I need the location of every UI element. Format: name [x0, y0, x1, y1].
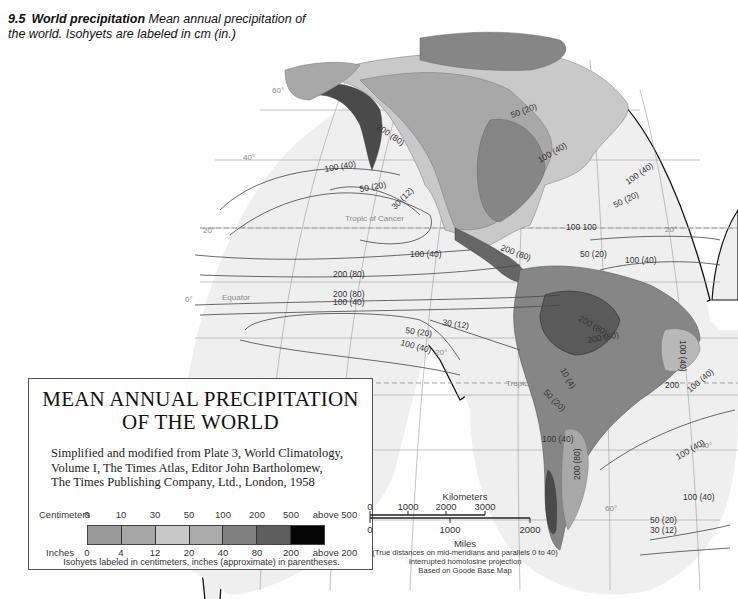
lat-label-0: 0°: [185, 295, 193, 304]
lat-label-60-south: 60°: [605, 504, 617, 513]
distance-scale: Kilometers 0 1000 2000 3000 0 1000 2000 …: [360, 491, 570, 571]
tropic-of-cancer-label: Tropic of Cancer: [345, 214, 404, 223]
cm-tick: above 500: [313, 509, 357, 520]
class-swatch: [156, 526, 190, 544]
class-swatch: [190, 526, 224, 544]
class-swatch: [257, 526, 291, 544]
mi-tick: 1000: [439, 524, 460, 535]
isohyet-label: 100 (40): [683, 492, 715, 502]
cm-tick: 100: [215, 509, 231, 520]
isohyet-label: 100 (40): [542, 434, 574, 444]
cm-tick: 0: [84, 509, 89, 520]
mi-tick: 0: [367, 524, 372, 535]
isohyet-label: 100 (40): [625, 255, 657, 265]
base-map-note: Based on Goode Base Map: [360, 566, 570, 575]
legend-title-line1: MEAN ANNUAL PRECIPITATION: [29, 388, 372, 411]
source-line: The Times Publishing Company, Ltd., Lond…: [51, 475, 372, 490]
lat-label-20-south: 20°: [435, 348, 447, 357]
class-swatch: [291, 526, 324, 544]
isohyet-label: 100 (40): [333, 297, 365, 307]
legend-title: MEAN ANNUAL PRECIPITATION OF THE WORLD: [29, 388, 372, 434]
mi-tick: 2000: [519, 524, 540, 535]
isohyet-label: 50 (20): [580, 249, 607, 259]
scale-notes: Miles (True distances on mid-meridians a…: [360, 539, 570, 575]
legend-source: Simplified and modified from Plate 3, Wo…: [51, 446, 372, 490]
cm-tick: 30: [150, 509, 161, 520]
lat-label-20-east: 20°: [665, 225, 677, 234]
projection-note: Interrupted homolosine projection: [360, 557, 570, 566]
isohyet-label: 100 (40): [410, 249, 442, 259]
isohyet-label: 200: [665, 380, 679, 390]
lat-label-40: 40°: [243, 153, 255, 162]
cm-tick: 10: [116, 509, 127, 520]
cm-tick: 200: [249, 509, 265, 520]
legend-title-line2: OF THE WORLD: [29, 411, 372, 434]
cm-tick: 500: [283, 509, 299, 520]
isohyet-label: 100 (40): [678, 340, 688, 372]
class-swatch: [88, 526, 122, 544]
map-legend: MEAN ANNUAL PRECIPITATION OF THE WORLD S…: [28, 378, 373, 570]
class-swatch: [223, 526, 257, 544]
isohyet-label: 200 (80): [333, 269, 365, 279]
isohyet-label: 200 (80): [572, 448, 582, 480]
lat-label-20: 20°: [203, 226, 215, 235]
class-swatch: [122, 526, 156, 544]
scale-bar: [360, 511, 570, 525]
source-line: Volume I, The Times Atlas, Editor John B…: [51, 461, 372, 476]
miles-label: Miles: [360, 539, 570, 548]
precipitation-color-bar: [87, 525, 325, 545]
isohyet-label: 50 (20): [650, 515, 677, 525]
land-canada-arctic: [420, 32, 566, 70]
precipitation-scale: Centimeters 0 10 30 50 100 200 500 above…: [29, 509, 374, 569]
lat-label-60: 60°: [272, 86, 284, 95]
tropic-of-capricorn-label: Tropic of Capricorn: [506, 379, 574, 388]
legend-note: Isohyets labeled in centimeters, inches …: [29, 557, 374, 567]
centimeters-label: Centimeters: [39, 509, 90, 520]
scale-note: (True distances on mid-meridians and par…: [360, 548, 570, 557]
equator-label: Equator: [222, 293, 250, 302]
isohyet-label: 30 (12): [650, 525, 677, 535]
map-lobe-africa-edge: [712, 210, 738, 300]
isohyet-label: 100 100: [566, 222, 597, 232]
cm-tick: 50: [184, 509, 195, 520]
source-line: Simplified and modified from Plate 3, Wo…: [51, 446, 372, 461]
